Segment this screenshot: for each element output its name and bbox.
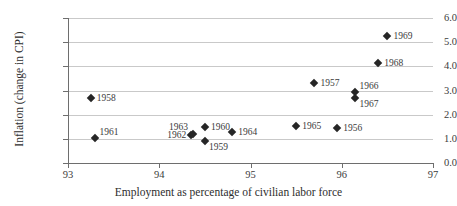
x-tick-95 [251,163,252,168]
data-point-label-1967: 1967 [359,100,378,110]
x-tick-label-95: 95 [231,170,271,181]
data-point-label-1956: 1956 [343,124,362,134]
diamond-marker-icon [87,94,95,102]
data-point-label-1962: 1962 [167,131,186,141]
diamond-marker-icon [292,121,300,129]
x-axis-title: Employment as percentage of civilian lab… [0,186,457,198]
diamond-marker-icon [383,32,391,40]
y-tick-4.0 [63,66,69,67]
data-point-label-1957: 1957 [320,79,339,89]
x-tick-93 [68,163,69,168]
phillips-curve-scatter-chart: 1956195719581959196019611962196319641965… [0,0,457,206]
y-tick-3.0 [63,91,69,92]
diamond-marker-icon [228,127,236,135]
y-tick-label-4.0: 4.0 [431,61,457,72]
gridline-y-5.0 [68,42,433,43]
diamond-marker-icon [310,79,318,87]
data-point-label-1966: 1966 [359,82,378,92]
data-point-label-1968: 1968 [384,59,403,69]
x-tick-label-97: 97 [413,170,453,181]
x-tick-label-96: 96 [322,170,362,181]
y-tick-label-1.0: 1.0 [431,134,457,145]
x-tick-label-94: 94 [139,170,179,181]
diamond-marker-icon [351,94,359,102]
data-point-label-1965: 1965 [302,122,321,132]
x-tick-94 [159,163,160,168]
y-tick-2.0 [63,115,69,116]
data-point-label-1964: 1964 [238,128,257,138]
y-tick-5.0 [63,42,69,43]
y-tick-label-3.0: 3.0 [431,85,457,96]
data-point-label-1969: 1969 [393,32,412,42]
y-tick-label-6.0: 6.0 [431,13,457,24]
y-axis-title: Inflation (change in CPI) [13,9,25,169]
data-point-label-1961: 1961 [99,128,118,138]
y-tick-label-5.0: 5.0 [431,37,457,48]
x-tick-97 [433,163,434,168]
gridline-y-6.0 [68,18,433,19]
diamond-marker-icon [201,123,209,131]
data-point-label-1958: 1958 [97,94,116,104]
x-tick-96 [342,163,343,168]
y-tick-6.0 [63,18,69,19]
x-tick-label-93: 93 [48,170,88,181]
data-point-label-1963: 1963 [169,123,188,133]
gridline-y-1.0 [68,139,433,140]
data-point-label-1959: 1959 [209,143,228,153]
plot-area: 1956195719581959196019611962196319641965… [68,18,433,163]
y-tick-label-0.0: 0.0 [431,158,457,169]
diamond-marker-icon [91,133,99,141]
gridline-y-2.0 [68,115,433,116]
diamond-marker-icon [333,124,341,132]
y-tick-1.0 [63,139,69,140]
y-tick-label-2.0: 2.0 [431,109,457,120]
